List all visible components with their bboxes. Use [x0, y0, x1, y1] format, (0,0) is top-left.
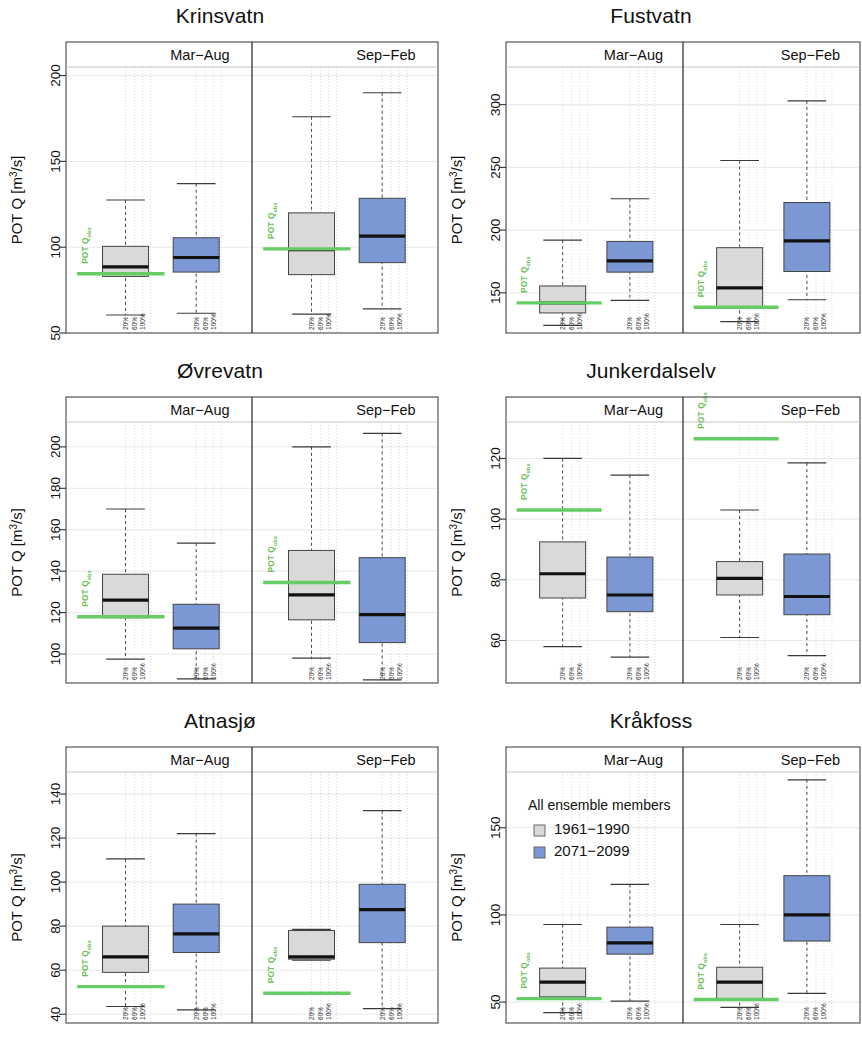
pct-tick-label: 20% — [122, 1007, 129, 1020]
pct-label-group: 60% — [131, 667, 138, 680]
y-tick-label: 40 — [48, 1007, 63, 1022]
pct-label-group: 100% — [576, 663, 583, 680]
y-tick-label: 50 — [48, 325, 63, 340]
pct-tick-label: 20% — [122, 317, 129, 330]
pct-tick-label: 100% — [820, 663, 827, 680]
facet-strip-label: Sep−Feb — [356, 402, 415, 418]
y-tick-label-group: 100 — [488, 508, 503, 531]
pct-label-group: 100% — [576, 313, 583, 330]
y-tick-label-group: 300 — [488, 93, 503, 116]
pct-tick-label: 60% — [745, 1007, 752, 1020]
plot-ovrevatn: POT QobsPOT Qobs20%60%100%20%60%100%20%6… — [0, 355, 440, 705]
plot-junkerdal: POT QobsPOT Qobs20%60%100%20%60%100%20%6… — [440, 355, 862, 705]
pct-tick-label: 60% — [317, 1007, 324, 1020]
plot-krinsvatn: POT QobsPOT Qobs20%60%100%20%60%100%20%6… — [0, 0, 440, 355]
pct-tick-label: 60% — [388, 1007, 395, 1020]
pct-tick-label: 100% — [576, 313, 583, 330]
pct-label-group: 100% — [396, 1003, 403, 1020]
y-tick-label: 120 — [488, 447, 503, 470]
y-tick-label-group: 80 — [488, 572, 503, 587]
facet-strip-label: Sep−Feb — [356, 47, 415, 63]
y-tick-label: 150 — [48, 150, 63, 173]
box-rect — [540, 542, 586, 598]
pct-label-group: 20% — [736, 1007, 743, 1020]
pct-label-group: 20% — [803, 317, 810, 330]
obs-label-subscript: obs — [525, 952, 531, 962]
y-axis-title-group: POT Q [m3/s] — [8, 853, 25, 942]
y-tick-label-group: 250 — [488, 156, 503, 179]
pct-label-group: 20% — [122, 667, 129, 680]
pct-label-group: 100% — [139, 313, 146, 330]
pct-tick-label: 20% — [626, 1007, 633, 1020]
pct-label-group: 60% — [635, 667, 642, 680]
y-tick-label-group: 120 — [48, 601, 63, 624]
axis-title-main: POT Q [m — [8, 177, 25, 244]
pct-label-group: 100% — [643, 1003, 650, 1020]
facet-strip-label: Mar−Aug — [604, 47, 663, 63]
y-tick-label-group: 100 — [488, 904, 503, 927]
pct-tick-label: 20% — [308, 1007, 315, 1020]
y-tick-label-group: 150 — [488, 282, 503, 305]
pct-tick-label: 20% — [626, 667, 633, 680]
pct-label-group: 100% — [753, 313, 760, 330]
axis-title-main: POT Q [m — [8, 530, 25, 597]
panel-atnasjo: AtnasjøPOT QobsPOT Qobs20%60%100%20%60%1… — [0, 705, 440, 1045]
pct-label-group: 100% — [325, 1003, 332, 1020]
legend-swatch-scen — [534, 847, 545, 858]
y-tick-label: 160 — [48, 518, 63, 541]
pct-tick-label: 100% — [753, 1003, 760, 1020]
y-tick-label-group: 50 — [48, 325, 63, 340]
box-rect — [359, 558, 405, 643]
box-rect — [173, 904, 219, 952]
y-tick-label: 140 — [48, 783, 63, 806]
facet-strip-label: Mar−Aug — [170, 47, 229, 63]
y-tick-label-group: 100 — [48, 871, 63, 894]
pct-label-group: 20% — [308, 667, 315, 680]
y-tick-label: 300 — [488, 93, 503, 116]
pct-label-group: 60% — [812, 317, 819, 330]
box-rect — [359, 198, 405, 262]
obs-label-subscript: obs — [525, 463, 531, 473]
pct-tick-label: 20% — [379, 1007, 386, 1020]
pct-label-group: 60% — [202, 317, 209, 330]
y-tick-label: 150 — [488, 282, 503, 305]
pct-label-group: 20% — [626, 667, 633, 680]
pct-tick-label: 60% — [812, 667, 819, 680]
pct-tick-label: 20% — [803, 317, 810, 330]
pct-label-group: 60% — [388, 667, 395, 680]
pct-tick-label: 100% — [139, 1003, 146, 1020]
pct-tick-label: 20% — [803, 1007, 810, 1020]
pct-label-group: 100% — [210, 313, 217, 330]
y-tick-label: 60 — [488, 633, 503, 648]
box-rect — [784, 554, 830, 615]
y-axis-title-group: POT Q [m3/s] — [448, 156, 465, 245]
y-tick-label-group: 60 — [488, 633, 503, 648]
pct-label-group: 20% — [626, 1007, 633, 1020]
y-axis-title-group: POT Q [m3/s] — [8, 508, 25, 597]
y-axis-title-group: POT Q [m3/s] — [448, 853, 465, 942]
facet-strip-label: Sep−Feb — [781, 752, 840, 768]
y-tick-label: 80 — [48, 919, 63, 934]
panel-title: Kråkfoss — [440, 709, 862, 733]
box-rect — [607, 927, 653, 954]
y-tick-label-group: 120 — [48, 827, 63, 850]
plot-krakfoss: POT QobsPOT Qobs20%60%100%20%60%100%20%6… — [440, 705, 862, 1045]
pct-label-group: 60% — [317, 667, 324, 680]
pct-label-group: 20% — [308, 1007, 315, 1020]
pct-label-group: 100% — [753, 663, 760, 680]
y-tick-label: 60 — [48, 963, 63, 978]
pct-label-group: 20% — [122, 317, 129, 330]
pct-tick-label: 100% — [396, 1003, 403, 1020]
y-tick-label-group: 200 — [48, 436, 63, 459]
box-rect — [289, 931, 335, 960]
pct-tick-label: 20% — [193, 317, 200, 330]
obs-label-subscript: obs — [702, 261, 708, 271]
obs-label-subscript: obs — [272, 536, 278, 546]
panel-junkerdal: JunkerdalselvPOT QobsPOT Qobs20%60%100%2… — [440, 355, 862, 705]
pct-label-group: 60% — [388, 1007, 395, 1020]
pct-tick-label: 60% — [202, 667, 209, 680]
pct-tick-label: 60% — [317, 667, 324, 680]
pct-label-group: 20% — [626, 317, 633, 330]
pct-tick-label: 20% — [193, 667, 200, 680]
pct-tick-label: 60% — [131, 317, 138, 330]
